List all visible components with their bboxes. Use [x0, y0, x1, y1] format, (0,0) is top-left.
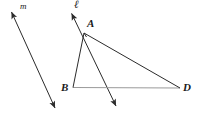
line-m-label: m — [20, 2, 27, 11]
line-l-label: ℓ — [74, 0, 79, 10]
segment-ab — [73, 33, 84, 88]
geometry-figure: m ℓ A B D — [0, 0, 198, 118]
figure-canvas — [0, 0, 198, 118]
segment-bd — [73, 88, 180, 89]
line-m — [12, 12, 56, 108]
vertex-label-d: D — [183, 82, 191, 93]
vertex-label-a: A — [87, 18, 94, 29]
segment-ad — [84, 33, 180, 88]
vertex-label-b: B — [61, 82, 68, 93]
